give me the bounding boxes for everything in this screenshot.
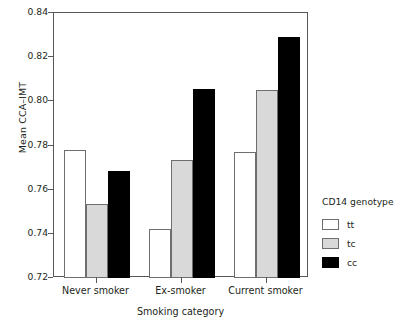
x-tick-mark (181, 277, 182, 283)
legend: CD14 genotype tttccc (322, 196, 403, 272)
y-tick-label: 0.80 (22, 94, 48, 105)
legend-item-tt: tt (322, 215, 403, 234)
y-tick-label: 0.82 (22, 50, 48, 61)
legend-entries: tttccc (322, 215, 403, 272)
bar-current-smoker-cc (278, 37, 300, 278)
bar-never-smoker-tt (64, 150, 86, 278)
legend-swatch-tc (322, 238, 339, 249)
x-tick-mark (266, 277, 267, 283)
y-tick-mark (48, 189, 53, 190)
legend-label: cc (347, 257, 357, 268)
legend-label: tt (347, 219, 354, 230)
bar-never-smoker-cc (108, 171, 130, 278)
x-tick-mark (96, 277, 97, 283)
y-axis-ticks: 0.840.820.800.780.760.740.72 (20, 0, 48, 325)
bars-layer (54, 13, 307, 276)
y-tick-label: 0.84 (22, 6, 48, 17)
y-tick-mark (48, 233, 53, 234)
bar-chart-figure: Mean CCA–IMT 0.840.820.800.780.760.740.7… (0, 0, 403, 325)
bar-never-smoker-tc (86, 204, 108, 278)
bar-current-smoker-tt (234, 152, 256, 278)
y-tick-mark (48, 12, 53, 13)
bar-ex-smoker-cc (193, 89, 215, 278)
legend-item-tc: tc (322, 234, 403, 253)
bar-ex-smoker-tc (171, 160, 193, 278)
bar-current-smoker-tc (256, 90, 278, 278)
legend-label: tc (347, 238, 356, 249)
bar-ex-smoker-tt (149, 229, 171, 278)
y-tick-label: 0.76 (22, 183, 48, 194)
legend-title: CD14 genotype (322, 196, 403, 207)
y-tick-mark (48, 277, 53, 278)
plot-area (53, 12, 308, 277)
legend-swatch-cc (322, 257, 339, 268)
y-tick-label: 0.74 (22, 227, 48, 238)
y-tick-label: 0.78 (22, 139, 48, 150)
legend-item-cc: cc (322, 253, 403, 272)
legend-swatch-tt (322, 219, 339, 230)
y-tick-mark (48, 145, 53, 146)
y-tick-mark (48, 56, 53, 57)
x-axis-label: Smoking category (53, 306, 308, 317)
y-tick-mark (48, 100, 53, 101)
x-category-label: Current smoker (211, 285, 321, 296)
y-tick-label: 0.72 (22, 271, 48, 282)
